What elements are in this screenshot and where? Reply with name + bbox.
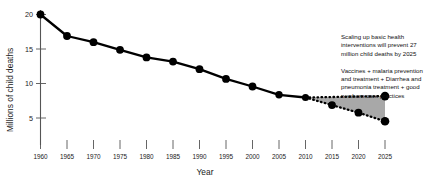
x-tick-label: 1980 xyxy=(139,153,154,160)
x-tick-label: 1995 xyxy=(219,153,234,160)
data-point xyxy=(169,58,177,66)
data-point xyxy=(143,54,151,62)
x-tick-label: 2025 xyxy=(378,153,393,160)
data-point xyxy=(37,11,45,19)
x-tick-label: 1975 xyxy=(113,153,128,160)
data-point xyxy=(116,46,124,54)
annotation-impact-note: Scaling up basic health interventions wi… xyxy=(341,33,427,58)
data-point xyxy=(275,91,282,98)
chart-figure: 20 15 10 5 Millions of child deaths xyxy=(0,0,427,180)
x-tick-label: 1960 xyxy=(33,153,48,160)
y-tick-label: 20 xyxy=(25,10,33,19)
annotation-panel: Scaling up basic health interventions wi… xyxy=(341,33,427,100)
x-tick-label: 2020 xyxy=(351,153,366,160)
x-tick-label: 2000 xyxy=(245,153,260,160)
y-axis-title: Millions of child deaths xyxy=(5,48,15,132)
x-tick-label: 2015 xyxy=(325,153,340,160)
intervention-endpoint xyxy=(381,117,390,126)
data-point xyxy=(355,109,363,117)
y-tick-label: 15 xyxy=(25,45,33,54)
data-point xyxy=(222,75,230,83)
x-tick-label: 1965 xyxy=(60,153,75,160)
data-point xyxy=(63,32,71,40)
x-axis-title: Year xyxy=(197,167,214,177)
x-tick-label: 1985 xyxy=(166,153,181,160)
annotation-interventions-note: Vaccines + malaria prevention and treatm… xyxy=(341,67,427,100)
x-tick-label: 2010 xyxy=(298,153,313,160)
x-tick-label: 1990 xyxy=(192,153,207,160)
data-point xyxy=(302,94,309,101)
data-point xyxy=(249,83,257,91)
data-point xyxy=(196,65,204,73)
y-tick-label: 5 xyxy=(29,114,33,123)
y-tick-label: 10 xyxy=(25,79,33,88)
x-tick-label: 1970 xyxy=(86,153,101,160)
data-point xyxy=(328,101,336,109)
data-point xyxy=(90,38,98,46)
x-tick-label: 2005 xyxy=(272,153,287,160)
